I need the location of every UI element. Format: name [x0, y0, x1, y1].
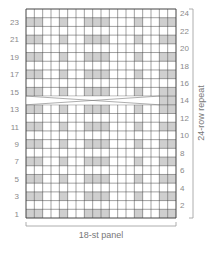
row-number: 1 [15, 210, 20, 219]
shaded-cell [84, 122, 92, 131]
row-number: 4 [180, 184, 185, 193]
shaded-cell [26, 174, 34, 183]
shaded-cell [134, 53, 142, 62]
shaded-cell [84, 35, 92, 44]
shaded-cell [93, 140, 101, 149]
shaded-cell [101, 35, 109, 44]
row-number: 9 [15, 140, 20, 149]
row-number: 2 [180, 201, 185, 210]
shaded-cell [34, 192, 42, 201]
shaded-cell [26, 53, 34, 62]
shaded-cell [84, 53, 92, 62]
shaded-cell [101, 53, 109, 62]
shaded-cell [101, 87, 109, 96]
shaded-cell [159, 209, 167, 218]
shaded-cell [168, 174, 176, 183]
shaded-cell [59, 105, 67, 114]
row-number: 10 [180, 131, 189, 140]
row-number: 19 [10, 53, 19, 62]
shaded-cell [159, 192, 167, 201]
shaded-cell [93, 105, 101, 114]
shaded-cell [59, 174, 67, 183]
shaded-cell [34, 35, 42, 44]
shaded-cell [101, 209, 109, 218]
shaded-cell [101, 140, 109, 149]
shaded-cell [26, 209, 34, 218]
knitting-chart: 1357911131517192123 24681012141618202224… [0, 0, 213, 262]
shaded-cell [159, 35, 167, 44]
shaded-cell [26, 87, 34, 96]
row-number: 20 [180, 44, 189, 53]
shaded-cell [34, 70, 42, 79]
shaded-cell [84, 209, 92, 218]
panel-width-label: 18-st panel [79, 230, 124, 240]
shaded-cell [159, 87, 167, 96]
shaded-cell [159, 18, 167, 27]
row-number: 21 [10, 35, 19, 44]
row-number: 14 [180, 96, 189, 105]
shaded-cell [168, 157, 176, 166]
shaded-cell [159, 105, 167, 114]
shaded-cell [93, 53, 101, 62]
shaded-cell [159, 174, 167, 183]
shaded-cell [168, 122, 176, 131]
shaded-cell [26, 122, 34, 131]
shaded-cell [34, 18, 42, 27]
shaded-cell [159, 53, 167, 62]
shaded-cell [134, 87, 142, 96]
shaded-cell [93, 192, 101, 201]
shaded-cell [168, 209, 176, 218]
shaded-cell [134, 105, 142, 114]
shaded-cell [34, 53, 42, 62]
shaded-cell [93, 174, 101, 183]
row-number: 17 [10, 70, 19, 79]
shaded-cell [34, 140, 42, 149]
shaded-cell [59, 87, 67, 96]
left-row-numbers: 1357911131517192123 [10, 18, 19, 219]
shaded-cell [59, 209, 67, 218]
shaded-cell [84, 157, 92, 166]
shaded-cell [34, 87, 42, 96]
row-number: 6 [180, 166, 185, 175]
shaded-cell [93, 122, 101, 131]
shaded-cell [59, 157, 67, 166]
shaded-cell [84, 70, 92, 79]
shaded-cell [34, 157, 42, 166]
shaded-cell [168, 140, 176, 149]
shaded-cell [26, 70, 34, 79]
shaded-cell [93, 70, 101, 79]
shaded-cell [59, 192, 67, 201]
shaded-cell [134, 209, 142, 218]
shaded-cell [168, 35, 176, 44]
shaded-cell [34, 174, 42, 183]
shaded-cell [26, 140, 34, 149]
shaded-cell [59, 35, 67, 44]
shaded-cell [26, 157, 34, 166]
row-number: 11 [11, 123, 20, 132]
shaded-cell [159, 70, 167, 79]
row-number: 8 [180, 149, 185, 158]
shaded-cell [34, 209, 42, 218]
shaded-cell [168, 105, 176, 114]
row-number: 18 [180, 62, 189, 71]
row-number: 13 [10, 105, 19, 114]
shaded-cell [26, 18, 34, 27]
row-number: 5 [15, 175, 20, 184]
shaded-cell [59, 18, 67, 27]
shaded-cell [134, 140, 142, 149]
shaded-cell [159, 140, 167, 149]
shaded-cell [101, 122, 109, 131]
row-repeat-label: 24-row repeat [196, 85, 206, 141]
shaded-cell [59, 53, 67, 62]
shaded-cell [84, 140, 92, 149]
shaded-cell [84, 18, 92, 27]
shaded-cell [134, 18, 142, 27]
shaded-cell [84, 192, 92, 201]
shaded-cell [101, 105, 109, 114]
row-number: 24 [180, 9, 189, 18]
row-number: 16 [180, 79, 189, 88]
shaded-cell [168, 192, 176, 201]
shaded-cell [168, 87, 176, 96]
shaded-cell [59, 70, 67, 79]
shaded-cell [101, 18, 109, 27]
